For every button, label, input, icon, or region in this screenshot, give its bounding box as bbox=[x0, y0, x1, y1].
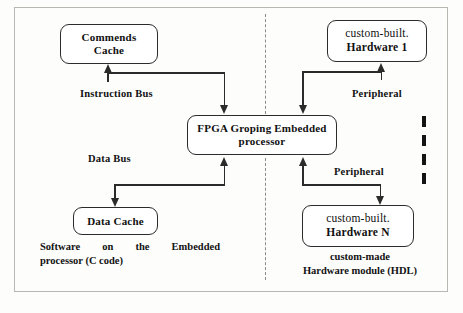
ellipsis-dash-1 bbox=[422, 116, 426, 127]
caption-software-line1: Software on the Embedded bbox=[40, 240, 220, 254]
arrowhead-data-bus-to-data-cache bbox=[111, 198, 119, 207]
peripheral-top-segment-left-vertical bbox=[302, 71, 304, 105]
node-hardware-1-line2: Hardware 1 bbox=[347, 41, 408, 55]
ellipsis-dash-2 bbox=[422, 135, 426, 146]
partition-divider-bottom bbox=[265, 158, 266, 280]
label-peripheral-top: Peripheral bbox=[352, 88, 402, 99]
node-commends-cache-line2: Cache bbox=[94, 44, 124, 57]
caption-hardware-partition: custom-made Hardware module (HDL) bbox=[296, 250, 424, 277]
caption-software-partition: Software on the Embedded processor (C co… bbox=[40, 240, 220, 268]
data-bus-segment-horizontal bbox=[114, 184, 225, 186]
node-commends-cache-line1: Commends bbox=[82, 31, 137, 44]
caption-hardware-line1: custom-made bbox=[296, 250, 424, 264]
node-data-cache-line1: Data Cache bbox=[87, 215, 144, 228]
caption-software-line2: processor (C code) bbox=[40, 254, 220, 268]
node-data-cache[interactable]: Data Cache bbox=[73, 207, 158, 235]
data-bus-segment-left-vertical bbox=[114, 184, 116, 199]
vertical-ellipsis-icon bbox=[421, 116, 427, 184]
peripheral-bottom-segment-left-vertical bbox=[302, 165, 304, 185]
peripheral-bottom-segment-horizontal bbox=[302, 184, 381, 186]
node-commends-cache[interactable]: Commends Cache bbox=[60, 24, 158, 64]
label-peripheral-bottom: Peripheral bbox=[334, 166, 384, 177]
arrowhead-instruction-bus-to-processor bbox=[220, 105, 228, 114]
node-hardware-n[interactable]: custom-built. Hardware N bbox=[302, 205, 414, 247]
instruction-bus-segment-right-vertical bbox=[224, 72, 226, 105]
node-hardware-1-line1: custom-built. bbox=[345, 27, 409, 41]
caption-hardware-line2: Hardware module (HDL) bbox=[296, 264, 424, 278]
label-instruction-bus: Instruction Bus bbox=[80, 88, 153, 99]
arrowhead-peripheral-top-to-processor bbox=[299, 105, 307, 114]
ellipsis-dash-4 bbox=[422, 173, 426, 184]
node-processor-line1: FPGA Groping Embedded bbox=[197, 122, 326, 135]
data-bus-segment-right-vertical bbox=[224, 165, 226, 185]
node-hardware-1[interactable]: custom-built. Hardware 1 bbox=[327, 20, 427, 62]
instruction-bus-segment-horizontal bbox=[107, 72, 225, 74]
ellipsis-dash-3 bbox=[422, 154, 426, 165]
node-hardware-n-line2: Hardware N bbox=[326, 226, 389, 240]
diagram-canvas: Commends Cache custom-built. Hardware 1 … bbox=[0, 0, 463, 313]
peripheral-top-segment-horizontal bbox=[302, 71, 382, 73]
node-fpga-embedded-processor[interactable]: FPGA Groping Embedded processor bbox=[187, 115, 337, 155]
label-data-bus: Data Bus bbox=[88, 153, 131, 164]
arrowhead-peripheral-bottom-to-hardwareN bbox=[376, 196, 384, 205]
partition-divider-top bbox=[265, 14, 266, 114]
node-processor-line2: processor bbox=[239, 135, 286, 148]
node-hardware-n-line1: custom-built. bbox=[326, 212, 390, 226]
